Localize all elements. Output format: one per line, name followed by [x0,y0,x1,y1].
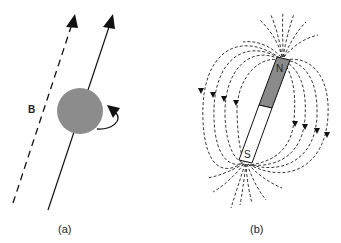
spin-axis-arrowhead-icon [103,14,115,29]
south-pole-label: S [244,149,251,160]
magnet-north-half [259,57,290,108]
b-field-arrowhead-icon [66,14,78,28]
panel-a: B (a) [13,14,120,235]
panel-b: N S (b) [198,12,330,235]
b-field-label: B [28,104,35,115]
panel-b-caption: (b) [250,223,263,235]
panel-a-caption: (a) [58,223,71,235]
north-pole-label: N [276,63,283,74]
figure: B (a) [0,0,341,243]
spinning-particle [57,88,103,134]
